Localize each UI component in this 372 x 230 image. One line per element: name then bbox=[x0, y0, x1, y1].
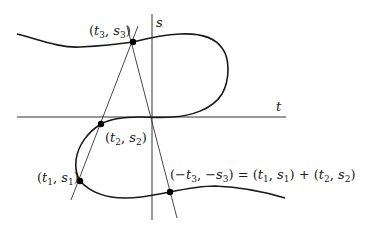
diagram-canvas bbox=[0, 0, 372, 230]
label-sum-equation: (−t3, −s3) = (t1, s1) + (t2, s2) bbox=[170, 168, 356, 181]
point-sum bbox=[167, 189, 173, 195]
secant-line-p1-p2 bbox=[71, 26, 138, 200]
label-p1: (t1, s1) bbox=[37, 171, 79, 184]
label-p2: (t2, s2) bbox=[105, 131, 147, 144]
s-axis-label: s bbox=[156, 16, 163, 29]
point-p2 bbox=[98, 121, 104, 127]
t-axis-label: t bbox=[276, 100, 281, 113]
point-p3 bbox=[130, 39, 136, 45]
label-p3: (t3, s3) bbox=[89, 24, 131, 37]
